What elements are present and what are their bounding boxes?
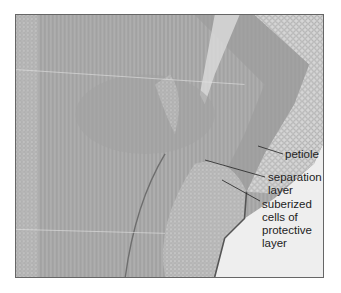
label-protective-layer-line2: cells of (262, 211, 312, 224)
label-protective-layer-line1: suberized (262, 198, 312, 211)
label-separation-layer-line2: layer (268, 184, 322, 197)
label-protective-layer-line4: layer (262, 237, 312, 250)
label-petiole: petiole (285, 148, 319, 161)
label-protective-layer-line3: protective (262, 224, 312, 237)
label-protective-layer: suberized cells of protective layer (262, 198, 312, 250)
label-separation-layer: separation layer (268, 171, 322, 197)
label-separation-layer-line1: separation (268, 171, 322, 184)
